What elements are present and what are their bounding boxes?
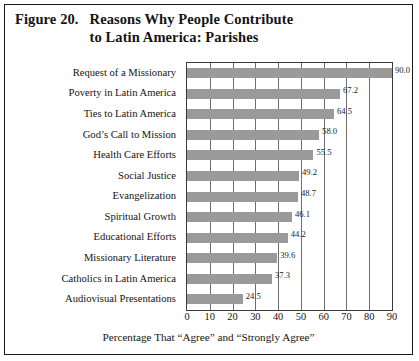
x-tick-label: 20 bbox=[227, 312, 237, 322]
x-axis-title: Percentage That “Agree” and “Strongly Ag… bbox=[5, 332, 412, 343]
category-label: Poverty in Latin America bbox=[5, 88, 176, 99]
category-axis-labels: Request of a MissionaryPoverty in Latin … bbox=[5, 62, 182, 311]
category-label: Educational Efforts bbox=[5, 232, 176, 243]
bar-value-label: 48.7 bbox=[298, 189, 316, 198]
bar-row[interactable]: 44.2 bbox=[187, 228, 392, 249]
category-label: Social Justice bbox=[5, 171, 176, 182]
bar-row[interactable]: 48.7 bbox=[187, 187, 392, 208]
bar[interactable] bbox=[187, 294, 243, 304]
bar[interactable] bbox=[187, 150, 313, 160]
bar[interactable] bbox=[187, 109, 334, 119]
bar-row[interactable]: 55.5 bbox=[187, 145, 392, 166]
bar-row[interactable]: 24.5 bbox=[187, 289, 392, 310]
bar[interactable] bbox=[187, 274, 272, 284]
bar-row[interactable]: 37.3 bbox=[187, 269, 392, 290]
bar-row[interactable]: 46.1 bbox=[187, 207, 392, 228]
bar-value-label: 67.2 bbox=[340, 86, 358, 95]
bar-value-label: 37.3 bbox=[272, 271, 290, 280]
bar-row[interactable]: 64.5 bbox=[187, 104, 392, 125]
bar-value-label: 58.0 bbox=[319, 127, 337, 136]
x-tick-label: 30 bbox=[250, 312, 260, 322]
bar-row[interactable]: 67.2 bbox=[187, 84, 392, 105]
bar-value-label: 55.5 bbox=[313, 148, 331, 157]
bar[interactable] bbox=[187, 253, 277, 263]
category-label: Evangelization bbox=[5, 191, 176, 202]
category-label: Audiovisual Presentations bbox=[5, 294, 176, 305]
x-tick-label: 0 bbox=[184, 312, 189, 322]
category-label: Health Care Efforts bbox=[5, 150, 176, 161]
category-label: Spiritual Growth bbox=[5, 212, 176, 223]
bar[interactable] bbox=[187, 212, 292, 222]
bar[interactable] bbox=[187, 89, 340, 99]
x-tick-label: 70 bbox=[341, 312, 351, 322]
bar[interactable] bbox=[187, 233, 288, 243]
figure-container: Figure 20. Reasons Why People Contribute… bbox=[4, 4, 413, 355]
bar-row[interactable]: 58.0 bbox=[187, 125, 392, 146]
category-label: Request of a Missionary bbox=[5, 68, 176, 79]
bar-row[interactable]: 90.0 bbox=[187, 63, 392, 84]
category-label: God’s Call to Mission bbox=[5, 130, 176, 141]
x-axis-tick-labels: 0102030405060708090 bbox=[186, 312, 393, 328]
bar-rows: 90.067.264.558.055.549.248.746.144.239.6… bbox=[186, 62, 393, 311]
bar-value-label: 90.0 bbox=[392, 66, 410, 75]
x-tick-label: 80 bbox=[364, 312, 374, 322]
bar[interactable] bbox=[187, 192, 298, 202]
bar-value-label: 44.2 bbox=[288, 230, 306, 239]
bar-value-label: 64.5 bbox=[334, 107, 352, 116]
category-label: Ties to Latin America bbox=[5, 109, 176, 120]
bar-value-label: 39.6 bbox=[277, 251, 295, 260]
x-tick-label: 60 bbox=[318, 312, 328, 322]
bar[interactable] bbox=[187, 68, 392, 78]
x-tick-label: 10 bbox=[205, 312, 215, 322]
bar-row[interactable]: 49.2 bbox=[187, 166, 392, 187]
bar-value-label: 49.2 bbox=[299, 168, 317, 177]
bar-chart: Request of a MissionaryPoverty in Latin … bbox=[5, 5, 412, 354]
category-label: Catholics in Latin America bbox=[5, 274, 176, 285]
x-tick-label: 90 bbox=[387, 312, 397, 322]
bar-row[interactable]: 39.6 bbox=[187, 248, 392, 269]
bar[interactable] bbox=[187, 130, 319, 140]
bar-value-label: 24.5 bbox=[243, 292, 261, 301]
x-tick-label: 40 bbox=[273, 312, 283, 322]
x-tick-label: 50 bbox=[296, 312, 306, 322]
category-label: Missionary Literature bbox=[5, 253, 176, 264]
bar-value-label: 46.1 bbox=[292, 210, 310, 219]
bar[interactable] bbox=[187, 171, 299, 181]
